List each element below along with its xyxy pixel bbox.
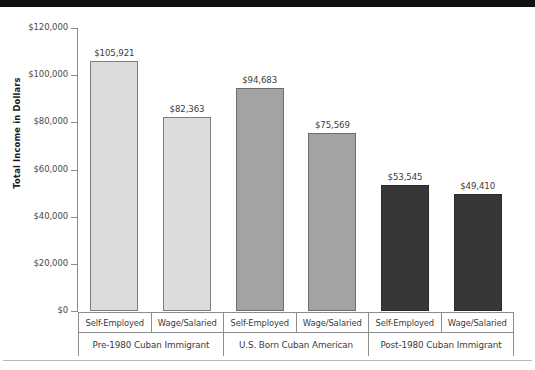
bar-value-label: $94,683 <box>242 75 277 85</box>
bar-value-label: $82,363 <box>170 104 205 114</box>
category-cell: Wage/Salaried <box>296 313 369 332</box>
bar[interactable] <box>454 194 502 311</box>
bottom-divider-rule <box>3 360 532 361</box>
bar-slot: $53,545 <box>381 28 429 311</box>
y-axis-tick-label: $120,000 <box>4 22 68 32</box>
bar-slot: $75,569 <box>308 28 356 311</box>
bar-value-label: $105,921 <box>94 48 134 58</box>
group-cell: Post-1980 Cuban Immigrant <box>368 333 514 356</box>
category-label-table: Self-EmployedWage/SalariedSelf-EmployedW… <box>78 312 514 356</box>
y-axis-tick-mark <box>71 122 77 123</box>
bar[interactable] <box>308 133 356 311</box>
category-group-row: Pre-1980 Cuban ImmigrantU.S. Born Cuban … <box>78 332 514 356</box>
y-axis-tick-mark <box>71 28 77 29</box>
y-axis-tick-labels: $120,000$100,000$80,000$60,000$40,000$20… <box>0 0 68 370</box>
y-axis-tick-label: $0 <box>4 305 68 315</box>
bar-value-label: $75,569 <box>315 120 350 130</box>
bar-slot: $82,363 <box>163 28 211 311</box>
bar-slot: $49,410 <box>454 28 502 311</box>
bar[interactable] <box>90 61 138 311</box>
y-axis-tick-mark <box>71 264 77 265</box>
y-axis-tick-label: $40,000 <box>4 211 68 221</box>
plot-region: $105,921$82,363$94,683$75,569$53,545$49,… <box>78 28 514 311</box>
category-cell: Wage/Salaried <box>151 313 224 332</box>
y-axis-tick-label: $80,000 <box>4 116 68 126</box>
bar-slot: $94,683 <box>236 28 284 311</box>
y-axis-tick-mark <box>71 75 77 76</box>
category-cell: Self-Employed <box>368 313 441 332</box>
bar-slot: $105,921 <box>90 28 138 311</box>
category-cell: Wage/Salaried <box>441 313 515 332</box>
category-cell: Self-Employed <box>78 313 151 332</box>
category-subgroup-row: Self-EmployedWage/SalariedSelf-EmployedW… <box>78 312 514 332</box>
y-axis-tick-mark <box>71 217 77 218</box>
bar[interactable] <box>163 117 211 311</box>
bar-chart: Total Income in Dollars $120,000$100,000… <box>0 0 535 370</box>
bar-value-label: $53,545 <box>388 172 423 182</box>
bar[interactable] <box>236 88 284 311</box>
bar-value-label: $49,410 <box>460 181 495 191</box>
y-axis-tick-label: $20,000 <box>4 258 68 268</box>
group-cell: Pre-1980 Cuban Immigrant <box>78 333 223 356</box>
y-axis-tick-label: $60,000 <box>4 164 68 174</box>
y-axis-tick-mark <box>71 170 77 171</box>
y-axis-tick-label: $100,000 <box>4 69 68 79</box>
group-cell: U.S. Born Cuban American <box>223 333 368 356</box>
bar[interactable] <box>381 185 429 311</box>
y-axis-tick-mark <box>71 311 77 312</box>
category-cell: Self-Employed <box>223 313 296 332</box>
